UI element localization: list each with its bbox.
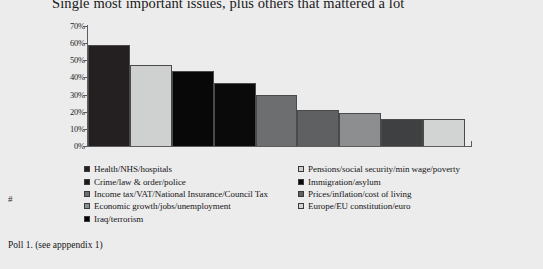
bar: [339, 113, 381, 146]
legend-swatch-icon: [298, 179, 304, 185]
legend-item-label: Immigration/asylum: [308, 177, 381, 187]
bar: [297, 110, 339, 146]
y-axis-tick-mark: [83, 60, 87, 61]
legend-item: Health/NHS/hospitals: [84, 163, 299, 175]
legend-item: Pensions/social security/min wage/povert…: [298, 163, 524, 175]
legend-item-label: Prices/inflation/cost of living: [308, 189, 411, 199]
legend-swatch-icon: [298, 203, 304, 209]
legend-item: Economic growth/jobs/unemployment: [84, 200, 299, 212]
legend-item-label: Economic growth/jobs/unemployment: [94, 201, 231, 211]
y-axis-tick-mark: [83, 77, 87, 78]
legend-swatch-icon: [298, 166, 304, 172]
legend-item-label: Health/NHS/hospitals: [94, 164, 172, 174]
legend-swatch-icon: [84, 203, 90, 209]
legend-item: Income tax/VAT/National Insurance/Counci…: [84, 188, 299, 200]
legend-item-label: Pensions/social security/min wage/povert…: [308, 164, 460, 174]
y-axis-tick-mark: [83, 112, 87, 113]
legend-item: Immigration/asylum: [298, 175, 524, 187]
bar: [88, 45, 130, 146]
bar: [256, 95, 298, 146]
legend-item: Iraq/terrorism: [84, 213, 299, 225]
y-axis-tick-mark: [83, 95, 87, 96]
legend-item: Crime/law & order/police: [84, 175, 299, 187]
legend-item: Prices/inflation/cost of living: [298, 188, 524, 200]
y-axis-tick-mark: [83, 43, 87, 44]
page-title: Single most important issues, plus other…: [52, 0, 522, 12]
y-axis-tick-mark: [83, 26, 87, 27]
bar: [423, 119, 465, 146]
legend-item-label: Income tax/VAT/National Insurance/Counci…: [94, 189, 268, 199]
bar: [381, 119, 423, 146]
bar: [214, 83, 256, 146]
bar: [172, 71, 214, 146]
x-axis-line: [87, 146, 472, 147]
legend-swatch-icon: [84, 166, 90, 172]
legend-item-label: Crime/law & order/police: [94, 177, 186, 187]
y-axis-tick-mark: [83, 129, 87, 130]
legend-swatch-icon: [84, 179, 90, 185]
legend-item: Europe/EU constitution/euro: [298, 200, 524, 212]
legend-column-right: Pensions/social security/min wage/povert…: [298, 163, 524, 213]
legend-swatch-icon: [84, 216, 90, 222]
legend-item-label: Europe/EU constitution/euro: [308, 201, 410, 211]
legend-swatch-icon: [84, 191, 90, 197]
bar-series: [88, 26, 465, 146]
chart-legend: Health/NHS/hospitalsCrime/law & order/po…: [84, 163, 524, 225]
x-axis-end-tick: [471, 141, 472, 147]
margin-hash-mark: #: [8, 194, 13, 204]
y-axis-labels: 70%60%50%40%30%20%10%0%: [55, 26, 85, 146]
legend-item-label: Iraq/terrorism: [94, 214, 143, 224]
y-axis-tick-mark: [83, 146, 87, 147]
legend-swatch-icon: [298, 191, 304, 197]
legend-column-left: Health/NHS/hospitalsCrime/law & order/po…: [84, 163, 299, 225]
bar: [130, 65, 172, 146]
source-note: Poll 1. (see apppendix 1): [8, 240, 103, 250]
